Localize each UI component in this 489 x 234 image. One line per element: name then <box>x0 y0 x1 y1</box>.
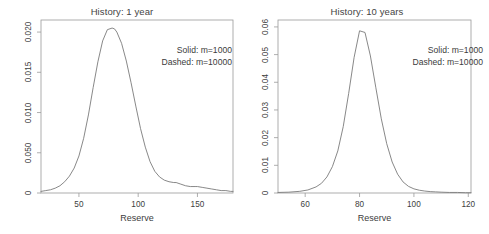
y-tick-label: 0.03 <box>261 102 270 118</box>
y-tick-label: 0.015 <box>24 62 33 83</box>
x-tick-label: 120 <box>461 200 475 209</box>
annotation-line-dashed: Dashed: m=10000 <box>162 56 232 68</box>
y-tick-label: 0.05 <box>261 47 270 63</box>
chart-panel-history-10-years: History: 10 years Solid: m=1000 Dashed: … <box>245 0 489 234</box>
plot-annotation: Solid: m=1000 Dashed: m=10000 <box>162 44 232 68</box>
y-tick-label: 0 <box>261 191 270 196</box>
annotation-line-solid: Solid: m=1000 <box>162 44 232 56</box>
x-tick-label: 100 <box>131 200 145 209</box>
x-axis-title: Reserve <box>278 213 471 223</box>
plot-area-10-years <box>245 0 489 234</box>
y-tick-label: 0.01 <box>261 157 270 173</box>
figure-canvas: History: 1 year Solid: m=1000 Dashed: m=… <box>0 0 489 234</box>
y-tick-label: 0.06 <box>261 19 270 35</box>
chart-panel-history-1-year: History: 1 year Solid: m=1000 Dashed: m=… <box>0 0 244 234</box>
y-tick-label: 0 <box>24 191 33 196</box>
x-axis-title: Reserve <box>41 213 233 223</box>
x-tick-label: 150 <box>191 200 205 209</box>
y-tick-label: 0.04 <box>261 74 270 90</box>
annotation-line-dashed: Dashed: m=10000 <box>413 56 483 68</box>
y-tick-label: 0.010 <box>24 102 33 123</box>
annotation-line-solid: Solid: m=1000 <box>413 44 483 56</box>
x-tick-label: 80 <box>355 200 364 209</box>
y-tick-label: 0.020 <box>24 22 33 43</box>
x-tick-label: 60 <box>301 200 310 209</box>
y-tick-label: 0.02 <box>261 130 270 146</box>
plot-annotation: Solid: m=1000 Dashed: m=10000 <box>413 44 483 68</box>
y-tick-label: 0.050 <box>24 143 33 164</box>
plot-area-1-year <box>0 0 244 234</box>
x-tick-label: 50 <box>74 200 83 209</box>
x-tick-label: 100 <box>407 200 421 209</box>
